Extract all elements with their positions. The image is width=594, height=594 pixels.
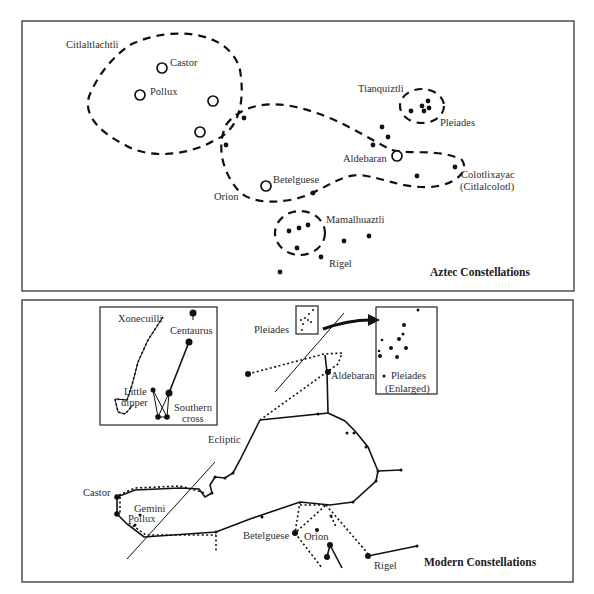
pollux-star: [135, 90, 145, 100]
label-pollux: Pollux: [128, 513, 156, 524]
label-rigel: Rigel: [374, 560, 397, 571]
label-centaurus: Centaurus: [170, 325, 213, 336]
label-enlarged: (Enlarged): [385, 383, 430, 395]
label-little: Little: [124, 386, 147, 397]
pleiades-small-box: Pleiades: [254, 306, 318, 335]
label-citlaltlachtli: Citlaltlachtli: [66, 39, 119, 50]
label-southern: Southern: [174, 402, 213, 413]
star-dot: [245, 371, 251, 377]
label-betelguese: Betelguese: [243, 530, 289, 541]
taurus-solid: [260, 355, 328, 420]
mamalhuaztli-boundary: [275, 211, 325, 255]
modern-constellations-panel: Xonecuilli Centaurus Little dipper South…: [22, 300, 573, 582]
label-orion: Orion: [214, 191, 239, 202]
top-panel-title: Aztec Constellations: [430, 266, 530, 278]
top-panel-frame: [22, 21, 574, 291]
aldebaran-star: [392, 151, 402, 161]
label-aldebaran: Aldebaran: [343, 153, 387, 164]
label-pleiades: Pleiades: [254, 324, 289, 335]
label-rigel: Rigel: [329, 258, 352, 269]
star-ring: [195, 127, 205, 137]
label-castor: Castor: [83, 487, 111, 498]
betelguese-star: [261, 181, 271, 191]
constellation-diagram: Citlaltlachtli Castor Pollux Tianquiztli…: [0, 0, 594, 594]
bottom-panel-frame: [22, 300, 573, 582]
chain-stars: [211, 413, 403, 534]
label-castor: Castor: [170, 57, 198, 68]
arrowhead-icon: [368, 314, 380, 326]
label-xonecuilli: Xonecuilli: [118, 313, 162, 324]
label-colotlixayac: Colotlixayac: [461, 169, 515, 180]
bottom-panel-title: Modern Constellations: [424, 556, 537, 568]
star-ring: [208, 96, 218, 106]
label-cross: cross: [182, 413, 204, 424]
constellation-chain: [117, 413, 378, 537]
label-pollux: Pollux: [150, 86, 178, 97]
label-dipper: dipper: [121, 397, 148, 408]
label-pleiades: Pleiades: [440, 117, 475, 128]
arrow-icon: [323, 320, 370, 329]
label-ecliptic: Ecliptic: [208, 434, 241, 445]
pleiades-enlarged-box: Pleiades (Enlarged): [376, 307, 437, 395]
label-aldebaran: Aldebaran: [331, 370, 375, 381]
label-pleiades-enlarged: Pleiades: [391, 370, 426, 381]
southern-sky-inset: Xonecuilli Centaurus Little dipper South…: [100, 307, 217, 425]
betelguese-star: [292, 530, 298, 536]
label-betelguese: Betelguese: [273, 174, 319, 185]
label-tianquiztli: Tianquiztli: [358, 83, 404, 94]
aztec-constellations-panel: Citlaltlachtli Castor Pollux Tianquiztli…: [22, 21, 574, 291]
label-mamalhuaztli: Mamalhuaztli: [326, 214, 384, 225]
castor-star: [157, 63, 167, 73]
label-citlalcolotl: (Citlalcolotl): [460, 181, 515, 193]
label-orion: Orion: [304, 531, 329, 542]
